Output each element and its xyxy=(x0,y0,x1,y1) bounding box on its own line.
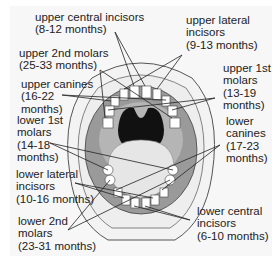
label-upper-lateral-incisors: upper lateral incisors (9-13 months) xyxy=(186,14,258,51)
label-lower-1st-molars: lower 1st molars (14-18 months) xyxy=(17,114,63,164)
label-upper-canines: upper canines (16-22 months) xyxy=(21,78,93,115)
label-upper-2nd-molars: upper 2nd molars (25-33 months) xyxy=(19,47,109,72)
label-lower-canines: lower canines (17-23 months) xyxy=(226,115,268,165)
label-upper-central-incisors: upper central incisors (8-12 months) xyxy=(35,11,144,36)
label-lower-2nd-molars: lower 2nd molars (23-31 months) xyxy=(18,215,96,252)
label-lower-lateral-incisors: lower lateral incisors (10-16 months) xyxy=(16,168,94,205)
label-upper-1st-molars: upper 1st molars (13-19 months) xyxy=(223,62,271,112)
label-lower-central-incisors: lower central incisors (6-10 months) xyxy=(197,205,269,242)
